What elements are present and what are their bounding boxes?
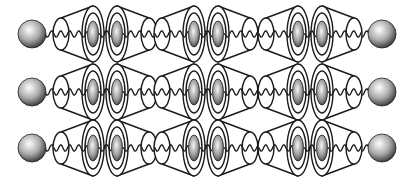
guest-ellipsoid bbox=[213, 135, 224, 161]
guest-ellipsoid bbox=[88, 79, 99, 105]
guest-ellipsoid bbox=[213, 79, 224, 105]
rotaxane-row bbox=[18, 6, 396, 62]
cone-small-rim bbox=[53, 76, 69, 108]
ring-pair bbox=[53, 120, 157, 176]
guest-ellipsoid bbox=[112, 79, 123, 105]
guest-ellipsoid bbox=[88, 135, 99, 161]
guest-ellipsoid bbox=[317, 21, 328, 47]
stopper-sphere-right bbox=[368, 78, 396, 106]
cone-small-rim bbox=[346, 76, 362, 108]
cone-small-rim bbox=[258, 132, 274, 164]
guest-ellipsoid bbox=[88, 21, 99, 47]
rotaxane-row bbox=[18, 120, 396, 176]
cone-small-rim bbox=[346, 18, 362, 50]
guest-ellipsoid bbox=[317, 79, 328, 105]
cone-small-rim bbox=[53, 18, 69, 50]
guest-ellipsoid bbox=[317, 135, 328, 161]
cone-small-rim bbox=[154, 132, 170, 164]
cone-small-rim bbox=[242, 76, 258, 108]
stopper-sphere-left bbox=[18, 134, 46, 162]
cone-small-rim bbox=[258, 76, 274, 108]
ring-pair bbox=[53, 6, 157, 62]
cone-small-rim bbox=[346, 132, 362, 164]
rotaxane-row bbox=[18, 64, 396, 120]
ring-pair bbox=[154, 64, 258, 120]
cone-small-rim bbox=[154, 18, 170, 50]
stopper-sphere-right bbox=[368, 20, 396, 48]
stopper-sphere-right bbox=[368, 134, 396, 162]
ring-pair bbox=[258, 64, 362, 120]
guest-ellipsoid bbox=[189, 79, 200, 105]
cone-small-rim bbox=[258, 18, 274, 50]
ring-pair bbox=[53, 64, 157, 120]
guest-ellipsoid bbox=[189, 135, 200, 161]
cone-small-rim bbox=[53, 132, 69, 164]
guest-ellipsoid bbox=[293, 21, 304, 47]
guest-ellipsoid bbox=[112, 21, 123, 47]
ring-pair bbox=[258, 120, 362, 176]
ring-pair bbox=[258, 6, 362, 62]
cone-small-rim bbox=[242, 132, 258, 164]
cone-small-rim bbox=[242, 18, 258, 50]
guest-ellipsoid bbox=[213, 21, 224, 47]
ring-pair bbox=[154, 120, 258, 176]
stopper-sphere-left bbox=[18, 20, 46, 48]
guest-ellipsoid bbox=[293, 135, 304, 161]
guest-ellipsoid bbox=[189, 21, 200, 47]
guest-ellipsoid bbox=[293, 79, 304, 105]
ring-pair bbox=[154, 6, 258, 62]
stopper-sphere-left bbox=[18, 78, 46, 106]
cone-small-rim bbox=[154, 76, 170, 108]
polyrotaxane-diagram bbox=[0, 0, 414, 184]
guest-ellipsoid bbox=[112, 135, 123, 161]
